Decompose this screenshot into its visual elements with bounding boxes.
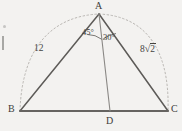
side-length-ac-radicand: 2 [150, 43, 156, 54]
scan-artifact-speck [3, 25, 6, 28]
side-length-ac: 8√2 [140, 44, 156, 55]
angle-label-bad: 45° [82, 28, 94, 37]
cevian-ad [99, 14, 110, 111]
figure-canvas [0, 0, 182, 131]
side-ac [99, 14, 168, 111]
vertex-label-a: A [95, 1, 102, 11]
vertex-label-b: B [8, 104, 15, 114]
geometry-figure: A B C D 12 8√2 45° 30° [0, 0, 182, 131]
side-length-ab: 12 [34, 44, 44, 54]
vertex-label-d: D [106, 116, 113, 126]
circumscribing-dashed-arc [20, 14, 168, 111]
square-root-icon: √2 [145, 44, 156, 55]
angle-label-dac: 30° [103, 33, 115, 42]
vertex-label-c: C [171, 104, 178, 114]
scan-artifact-bar [2, 36, 4, 50]
